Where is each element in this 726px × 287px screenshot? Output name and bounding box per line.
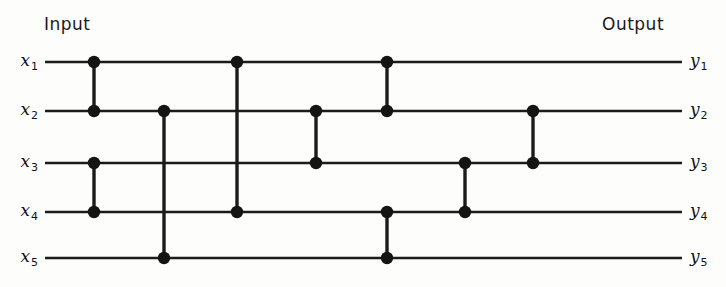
input-subscript: 3	[30, 161, 38, 174]
output-subscript: 3	[700, 161, 708, 174]
input-wire-label-4: x4	[20, 202, 38, 222]
comparator-node	[231, 56, 243, 68]
output-var: y	[690, 99, 700, 119]
comparator-node	[527, 105, 539, 117]
output-wire-label-3: y3	[690, 153, 708, 173]
comparator-node	[459, 206, 471, 218]
sorting-network-figure: Input Output x1x2x3x4x5 y1y2y3y4y5	[0, 0, 726, 287]
input-var: x	[20, 50, 30, 70]
output-wire-label-4: y4	[690, 202, 708, 222]
comparator-node	[310, 157, 322, 169]
comparator-node	[381, 252, 393, 264]
comparator-node	[88, 157, 100, 169]
input-wire-label-5: x5	[20, 248, 38, 268]
comparator-node	[527, 157, 539, 169]
comparator-node	[381, 206, 393, 218]
input-wire-label-3: x3	[20, 153, 38, 173]
output-wire-label-1: y1	[690, 52, 708, 72]
comparator-node	[381, 105, 393, 117]
comparator-node	[88, 206, 100, 218]
comparator-node	[459, 157, 471, 169]
comparator-node	[158, 252, 170, 264]
output-var: y	[690, 200, 700, 220]
output-var: y	[690, 50, 700, 70]
input-var: x	[20, 246, 30, 266]
comparator-node	[88, 56, 100, 68]
input-subscript: 4	[30, 210, 38, 223]
comparator-node	[381, 56, 393, 68]
input-wire-label-2: x2	[20, 101, 38, 121]
output-subscript: 2	[700, 109, 708, 122]
output-wire-label-5: y5	[690, 248, 708, 268]
sorting-network-canvas	[0, 0, 726, 287]
input-var: x	[20, 99, 30, 119]
input-subscript: 5	[30, 256, 38, 269]
input-wire-label-1: x1	[20, 52, 38, 72]
comparator-nodes-group	[88, 56, 539, 264]
input-subscript: 1	[30, 60, 38, 73]
output-var: y	[690, 151, 700, 171]
wire-lines-group	[45, 62, 682, 258]
input-var: x	[20, 151, 30, 171]
comparator-node	[310, 105, 322, 117]
comparator-node	[158, 105, 170, 117]
input-subscript: 2	[30, 109, 38, 122]
output-subscript: 5	[700, 256, 708, 269]
comparator-node	[231, 206, 243, 218]
output-wire-label-2: y2	[690, 101, 708, 121]
output-subscript: 4	[700, 210, 708, 223]
output-subscript: 1	[700, 60, 708, 73]
input-var: x	[20, 200, 30, 220]
comparator-node	[88, 105, 100, 117]
output-var: y	[690, 246, 700, 266]
